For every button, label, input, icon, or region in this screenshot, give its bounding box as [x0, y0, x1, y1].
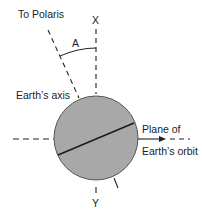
angle-a-arc — [60, 48, 96, 56]
orbit-arrow-head-icon — [159, 136, 166, 142]
polaris-label: To Polaris — [18, 8, 64, 20]
orbit-plane-label-line2: Earth’s orbit — [142, 145, 198, 157]
orbit-plane-label-line1: Plane of — [142, 123, 181, 135]
earth-circle — [54, 96, 138, 180]
axis-bottom-stub — [114, 178, 118, 188]
x-label: X — [92, 14, 99, 26]
earth-axis-label: Earth’s axis — [16, 89, 70, 101]
angle-a-label: A — [72, 37, 79, 49]
y-label: Y — [92, 197, 99, 209]
earth-tilt-diagram: To Polaris X A Earth’s axis Plane of Ear… — [0, 0, 202, 218]
